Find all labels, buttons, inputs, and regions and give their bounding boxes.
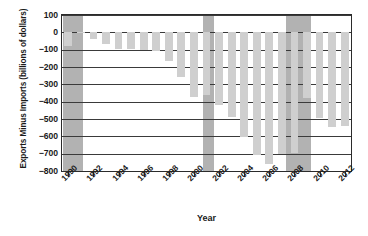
bar: [278, 32, 286, 153]
x-axis-title: Year: [61, 213, 352, 223]
y-tick-label: −100: [24, 45, 58, 54]
bar: [240, 32, 248, 137]
gridline: [62, 119, 351, 120]
bar: [90, 32, 98, 39]
bar: [152, 32, 160, 51]
chart-figure: Exports Minus Imports (billions of dolla…: [0, 0, 368, 236]
bar: [77, 32, 85, 33]
y-tick-label: −300: [24, 80, 58, 89]
bar: [328, 32, 336, 127]
bar: [177, 32, 185, 77]
y-tick-label: 100: [24, 11, 58, 20]
bar: [102, 32, 110, 44]
gridline: [62, 102, 351, 103]
x-axis-tick-labels: 1990199219941996199820002002200420062008…: [61, 176, 352, 210]
bar: [265, 32, 273, 164]
bar: [165, 32, 173, 61]
y-tick-label: −500: [24, 115, 58, 124]
bar: [316, 32, 324, 118]
plot-inner: [62, 15, 351, 171]
bar: [203, 32, 211, 95]
y-tick-label: −600: [24, 132, 58, 141]
bar: [215, 32, 223, 104]
gridline: [62, 15, 351, 16]
bar: [140, 32, 148, 50]
gridline: [62, 154, 351, 155]
bar: [341, 32, 349, 126]
bar: [127, 32, 135, 49]
bar: [303, 32, 311, 98]
bar: [64, 32, 72, 46]
y-tick-label: −400: [24, 97, 58, 106]
bar: [291, 32, 299, 153]
gridline: [62, 136, 351, 137]
bar: [228, 32, 236, 117]
y-tick-label: −200: [24, 63, 58, 72]
y-tick-label: 0: [24, 28, 58, 37]
y-tick-label: −800: [24, 167, 58, 176]
y-tick-label: −700: [24, 149, 58, 158]
bar: [253, 32, 261, 155]
bar: [115, 32, 123, 49]
y-axis-tick-labels: 1000−100−200−300−400−500−600−700−800: [22, 0, 58, 236]
bar: [190, 32, 198, 96]
plot-area: [61, 14, 352, 172]
